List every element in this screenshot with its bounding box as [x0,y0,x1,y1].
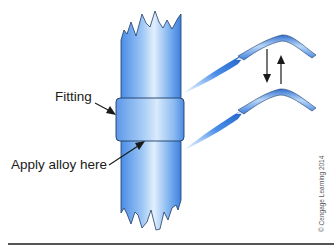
torch-lower-flame [184,108,246,150]
copyright-credit: © Cengage Learning 2014 [318,156,325,232]
torch-upper-tube [238,35,316,60]
fitting-leader-arrow-icon [95,103,116,115]
torch-lower-tube [238,89,316,114]
fitting-label: Fitting [55,89,92,104]
arrow-up-icon [277,55,285,84]
fitting-sleeve [116,98,184,141]
torch-lower [184,89,316,150]
bottom-rule [8,243,334,245]
fitting [116,98,184,141]
brazing-diagram [0,0,336,251]
apply-alloy-label: Apply alloy here [11,157,107,172]
motion-arrows [263,49,285,84]
torch-upper [184,35,316,93]
arrow-down-icon [263,49,271,83]
